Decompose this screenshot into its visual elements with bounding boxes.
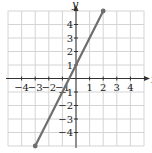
x-tick-label: −4 [14,82,29,93]
x-tick-label: −2 [41,82,56,93]
y-tick-label: 1 [67,60,73,71]
x-axis-label: x [151,73,152,86]
x-tick-label: 4 [127,82,133,93]
y-tick-label: −3 [58,114,73,125]
y-tick-label: 2 [67,46,73,57]
y-axis-label: y [71,0,79,11]
coordinate-plane: xy−4−3−2−11234−4−3−2−11234 [0,0,152,153]
y-tick-label: −4 [58,127,73,138]
x-tick-label: 2 [100,82,106,93]
y-tick-label: −2 [58,100,73,111]
endpoint-marker [101,9,106,14]
y-tick-label: 4 [67,19,73,30]
x-tick-label: 1 [86,82,92,93]
endpoint-marker [33,144,38,149]
y-tick-label: 3 [67,33,73,44]
x-axis-arrow-icon [144,76,150,81]
x-tick-label: 3 [114,82,120,93]
x-tick-label: −3 [28,82,43,93]
